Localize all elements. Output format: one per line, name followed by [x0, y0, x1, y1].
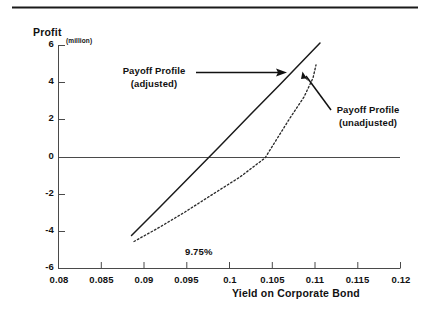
y-tick-label-minus-4: -4: [28, 225, 54, 235]
y-tick-label-minus-6: -6: [28, 262, 54, 272]
x-tick-label-0-11: 0.11: [294, 275, 336, 285]
y-tick-label-2: 2: [32, 113, 54, 123]
series-label-adjusted-line2: (adjusted): [112, 79, 196, 89]
chart-canvas: [0, 0, 433, 319]
adjusted-callout-arrow: [196, 69, 287, 77]
chart-figure: Profit (million) 6 4 2 0 -2 -4 -6 0.08 0…: [0, 0, 433, 319]
breakeven-annotation: 9.75%: [185, 247, 212, 257]
x-tick-label-0-115: 0.115: [335, 275, 380, 285]
x-tick-label-0-09: 0.09: [123, 275, 165, 285]
x-tick-marks: [59, 262, 401, 269]
x-tick-label-0-095: 0.095: [164, 275, 209, 285]
y-axis-unit-label: (million): [66, 38, 92, 45]
series-label-adjusted-line1: Payoff Profile: [112, 66, 196, 76]
series-label-unadjusted-line1: Payoff Profile: [322, 105, 414, 115]
series-label-unadjusted-line2: (unadjusted): [322, 118, 414, 128]
series-unadjusted-line: [134, 65, 316, 242]
y-tick-label-0: 0: [32, 151, 54, 161]
x-tick-label-0-085: 0.085: [79, 275, 124, 285]
x-tick-label-0-1: 0.1: [209, 275, 251, 285]
x-tick-label-0-08: 0.08: [38, 275, 80, 285]
x-tick-label-0-105: 0.105: [250, 275, 295, 285]
x-axis-title: Yield on Corporate Bond: [232, 288, 360, 299]
y-tick-label-minus-2: -2: [28, 188, 54, 198]
y-tick-label-4: 4: [32, 76, 54, 86]
y-tick-label-6: 6: [32, 39, 54, 49]
x-tick-label-0-12: 0.12: [380, 275, 422, 285]
y-axis-title: Profit: [33, 27, 62, 38]
